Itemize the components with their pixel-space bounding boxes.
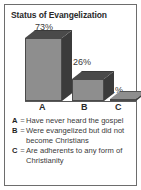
bar-b-front-face: [72, 79, 104, 101]
bar-a-side-face: [62, 30, 72, 101]
legend-item-b: B = Were evangelized but did not become …: [12, 126, 131, 145]
category-label-a: A: [39, 102, 46, 113]
chart-figure: Status of Evangelization 73% 26% 1%: [0, 0, 141, 190]
chart-title: Status of Evangelization: [11, 10, 131, 20]
category-label-b: B: [81, 102, 88, 113]
legend-key-a: A: [12, 116, 19, 125]
legend-text-a: Have never heard the gospel: [26, 116, 131, 125]
category-axis: A B C: [10, 102, 138, 114]
legend-key-c: C: [12, 146, 19, 155]
legend-item-c: C = Are adherents to any form of Christi…: [12, 146, 131, 165]
legend-key-b: B: [12, 126, 19, 135]
bar-a-front-face: [25, 38, 62, 101]
plot-area: 73% 26% 1% A B C: [10, 21, 138, 113]
legend-separator-a: =: [19, 116, 26, 125]
bar-a: [25, 38, 62, 101]
category-label-c: C: [115, 102, 122, 113]
legend-separator-c: =: [19, 146, 26, 155]
data-label-b: 26%: [73, 57, 91, 67]
legend-text-c: Are adherents to any form of Christianit…: [26, 146, 131, 165]
chart-frame: Status of Evangelization 73% 26% 1%: [4, 4, 137, 186]
legend: A = Have never heard the gospel B = Were…: [12, 116, 131, 165]
legend-text-b: Were evangelized but did not become Chri…: [26, 126, 131, 145]
legend-item-a: A = Have never heard the gospel: [12, 116, 131, 125]
bar-b: [72, 79, 104, 101]
legend-separator-b: =: [19, 126, 26, 135]
